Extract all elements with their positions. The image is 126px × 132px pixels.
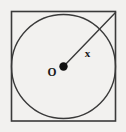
center-point-dot: [59, 62, 67, 70]
geometry-diagram-svg: O x: [0, 0, 126, 132]
geometry-figure: O x: [0, 0, 126, 132]
radius-length-label: x: [85, 47, 91, 59]
center-point-label: O: [48, 66, 57, 78]
